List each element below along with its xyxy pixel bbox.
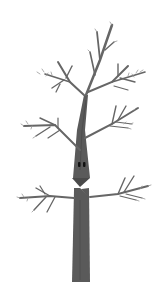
right-eye xyxy=(83,162,86,167)
left-eye xyxy=(78,162,81,167)
trunk-lower xyxy=(72,188,90,282)
